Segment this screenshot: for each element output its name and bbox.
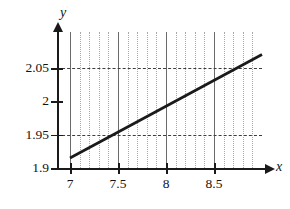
- x-tick-7-5: [118, 163, 120, 174]
- x-tick-8-5: [214, 163, 216, 174]
- y-axis-arrow-icon: [53, 22, 63, 32]
- x-tick-8: [166, 163, 168, 174]
- x-tick-label-7-5: 7.5: [110, 177, 127, 191]
- y-tick-1-9: [51, 168, 63, 170]
- y-tick-label-2: 2: [42, 94, 49, 108]
- y-tick-1-95: [51, 135, 63, 137]
- y-axis: [57, 30, 59, 170]
- x-tick-label-7: 7: [67, 177, 74, 191]
- x-tick-7: [70, 163, 72, 174]
- y-tick-labels: 2.05 2 1.95 1.9: [0, 0, 49, 209]
- y-axis-label: y: [60, 6, 66, 20]
- x-axis: [57, 168, 267, 170]
- x-tick-label-8-5: 8.5: [206, 177, 223, 191]
- y-tick-label-1-9: 1.9: [32, 161, 49, 175]
- x-axis-arrow-icon: [265, 164, 275, 174]
- x-axis-label: x: [276, 160, 282, 174]
- y-tick-2-05: [51, 68, 63, 70]
- y-tick-2: [51, 101, 63, 103]
- chart-figure: 2.05 2 1.95 1.9 7 7.5 8 8.5 y x: [0, 0, 290, 209]
- x-tick-label-8: 8: [163, 177, 170, 191]
- y-tick-label-2-05: 2.05: [25, 61, 49, 75]
- y-tick-label-1-95: 1.95: [25, 128, 49, 142]
- data-line: [70, 55, 262, 159]
